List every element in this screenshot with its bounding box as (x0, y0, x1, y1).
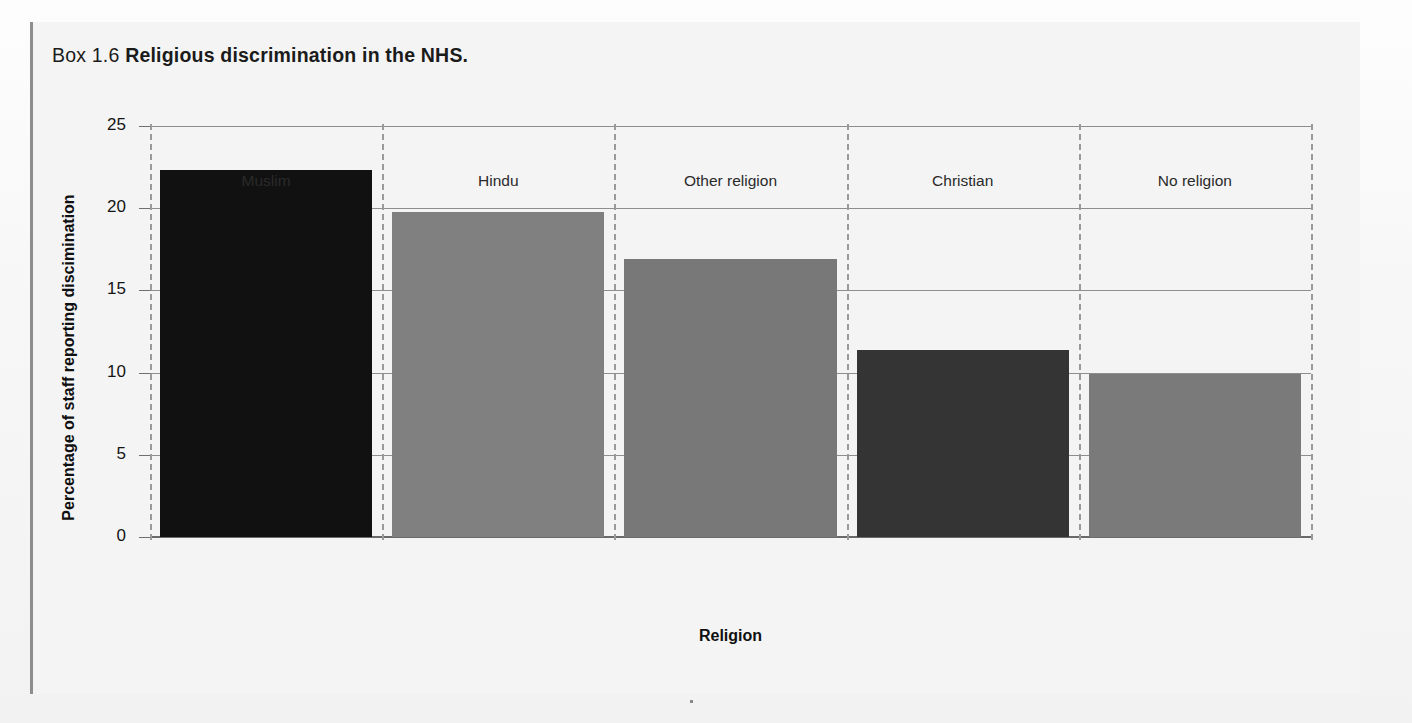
page-artifact-dot (690, 700, 693, 703)
y-tick-label-15: 15 (80, 279, 126, 299)
y-tick-mark-15 (139, 290, 150, 291)
bar-no-religion[interactable] (1089, 374, 1301, 537)
y-tick-label-0: 0 (80, 526, 126, 546)
y-tick-mark-5 (139, 455, 150, 456)
page: Box 1.6 Religious discrimination in the … (0, 0, 1412, 723)
x-tick-label-other-religion: Other religion (614, 172, 846, 190)
plot-area: 0510152025MuslimHinduOther religionChris… (150, 126, 1311, 537)
x-tick-label-no-religion: No religion (1079, 172, 1311, 190)
y-tick-label-20: 20 (80, 197, 126, 217)
x-tick-label-hindu: Hindu (382, 172, 614, 190)
y-tick-mark-20 (139, 208, 150, 209)
x-axis-label: Religion (150, 627, 1311, 645)
y-tick-mark-10 (139, 373, 150, 374)
y-tick-label-5: 5 (80, 444, 126, 464)
y-axis-label: Percentage of staff reporting disciminat… (56, 152, 82, 563)
y-tick-label-10: 10 (80, 362, 126, 382)
category-separator-edge-1 (1311, 124, 1313, 540)
x-tick-label-christian: Christian (847, 172, 1079, 190)
y-tick-mark-25 (139, 126, 150, 127)
x-tick-label-muslim: Muslim (150, 172, 382, 190)
bar-chart: Percentage of staff reporting disciminat… (0, 0, 1412, 723)
y-tick-label-25: 25 (80, 115, 126, 135)
bar-other-religion[interactable] (624, 259, 836, 537)
gridline-25 (150, 126, 1311, 127)
y-tick-mark-0 (139, 537, 150, 538)
bar-hindu[interactable] (392, 212, 604, 538)
bar-muslim[interactable] (160, 170, 372, 537)
bar-christian[interactable] (857, 350, 1069, 537)
